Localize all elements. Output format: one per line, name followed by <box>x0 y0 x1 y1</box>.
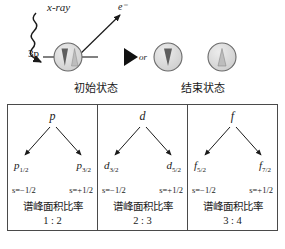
parent-orbital-label: d <box>98 109 187 124</box>
child-orbital-left: p1/2 <box>14 159 28 174</box>
peak-area-ratio-label: 谱峰面积比率 <box>188 198 277 213</box>
xps-spin-orbit-splitting-diagram: x-ray e⁻ 3p or 初始状态 结束状态 p p1/2 p3/2 s=−… <box>0 0 285 249</box>
initial-state-label: 初始状态 <box>52 79 140 95</box>
splitting-panels-container: p p1/2 p3/2 s=−1/2 s=+1/2 谱峰面积比率 1 : 2 d… <box>7 104 278 231</box>
peak-area-ratio-value: 3 : 4 <box>188 215 277 226</box>
final-atom-spin-down-icon <box>154 43 182 71</box>
or-label: or <box>139 52 147 62</box>
spin-value-left: s=−1/2 <box>12 185 36 195</box>
child-orbital-left: f5/2 <box>194 159 206 174</box>
spin-value-left: s=−1/2 <box>192 185 216 195</box>
child-left-subscript: 5/2 <box>197 166 206 174</box>
parent-orbital-label: f <box>188 109 277 124</box>
peak-area-ratio-label: 谱峰面积比率 <box>98 198 187 213</box>
child-left-subscript: 3/2 <box>110 166 119 174</box>
final-state-label: 结束状态 <box>155 79 251 95</box>
splitting-panel-d: d d3/2 d5/2 s=−1/2 s=+1/2 谱峰面积比率 2 : 3 <box>98 105 188 230</box>
spin-value-right: s=+1/2 <box>69 185 93 195</box>
splitting-panel-f: f f5/2 f7/2 s=−1/2 s=+1/2 谱峰面积比率 3 : 4 <box>188 105 277 230</box>
child-right-subscript: 3/2 <box>82 166 91 174</box>
electron-label: e⁻ <box>118 1 127 12</box>
electron-emission-arrow-icon <box>76 15 120 58</box>
final-atom-spin-up-icon <box>208 43 236 71</box>
peak-area-ratio-value: 1 : 2 <box>8 215 97 226</box>
child-left-subscript: 1/2 <box>20 166 29 174</box>
child-right-subscript: 7/2 <box>262 166 271 174</box>
initial-atom-icon <box>54 43 82 71</box>
child-orbital-left: d3/2 <box>104 159 118 174</box>
child-orbital-right: p3/2 <box>77 159 91 174</box>
splitting-panel-p: p p1/2 p3/2 s=−1/2 s=+1/2 谱峰面积比率 1 : 2 <box>8 105 98 230</box>
transition-triangle-icon <box>124 48 138 66</box>
peak-area-ratio-value: 2 : 3 <box>98 215 187 226</box>
spin-value-left: s=−1/2 <box>102 185 126 195</box>
child-right-subscript: 5/2 <box>172 166 181 174</box>
photoemission-process-row: x-ray e⁻ 3p or 初始状态 结束状态 <box>0 0 285 100</box>
spin-value-right: s=+1/2 <box>249 185 273 195</box>
child-orbital-right: d5/2 <box>167 159 181 174</box>
peak-area-ratio-label: 谱峰面积比率 <box>8 198 97 213</box>
xray-label: x-ray <box>47 1 70 13</box>
child-orbital-right: f7/2 <box>259 159 271 174</box>
orbital-label: 3p <box>28 47 39 59</box>
spin-value-right: s=+1/2 <box>159 185 183 195</box>
parent-orbital-label: p <box>8 109 97 124</box>
